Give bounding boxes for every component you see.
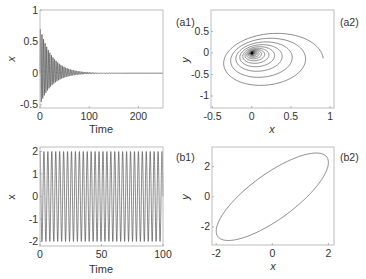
y-tick-label: -1 — [29, 213, 38, 225]
plot-a2-line — [224, 33, 324, 85]
plot-a1-ylabel: x — [5, 56, 17, 63]
x-tick-label: 0 — [269, 247, 275, 259]
panel-label-b1: (b1) — [176, 151, 195, 163]
plot-b2-limit-cycle: -202-202 x y (b1) (b2) — [176, 147, 359, 272]
plot-a2-ticks: -0.500.51-1-0.500.5 — [191, 25, 333, 122]
x-tick-label: 100 — [80, 110, 98, 122]
plot-a1-xlabel: Time — [89, 123, 113, 135]
plot-a2-xlabel: x — [268, 123, 275, 135]
y-tick-label: -0.5 — [20, 98, 38, 110]
y-tick-label: 1 — [32, 168, 38, 180]
plot-b1-xlabel: Time — [89, 263, 113, 275]
plot-a2-phase-portrait: -0.500.51-1-0.500.5 x y (a1) (a2) — [176, 10, 359, 135]
y-tick-label: 2 — [204, 160, 210, 172]
plot-b1-line — [40, 152, 163, 242]
figure: 0100200-0.500.51 Time x -0.500.51-1-0.50… — [0, 0, 366, 279]
plot-a2-curve — [224, 33, 324, 85]
plot-b2-axes-box — [212, 147, 334, 245]
x-tick-label: 0.5 — [284, 110, 299, 122]
x-tick-label: 50 — [96, 248, 108, 260]
y-tick-label: 2 — [32, 145, 38, 157]
plot-b1-time-series: 050100-2-1012 Time x — [5, 145, 172, 275]
y-tick-label: -1 — [200, 89, 209, 101]
plot-a1-axes-box — [40, 10, 163, 108]
plot-a2-ylabel: y — [179, 56, 191, 64]
y-tick-label: -2 — [201, 220, 210, 232]
y-tick-label: -0.5 — [191, 68, 209, 80]
plot-b2-curve — [216, 153, 328, 240]
y-tick-label: -2 — [29, 235, 38, 247]
x-tick-label: 200 — [130, 110, 148, 122]
plot-b1-ylabel: x — [5, 194, 17, 200]
plot-a1-line — [40, 29, 163, 102]
x-tick-label: 100 — [154, 248, 172, 260]
panel-label-a2: (a2) — [340, 16, 359, 28]
panel-label-b2: (b2) — [340, 151, 359, 163]
panel-label-a1: (a1) — [176, 16, 195, 28]
y-tick-label: 0 — [32, 190, 38, 202]
y-tick-label: 0 — [203, 46, 209, 58]
x-tick-label: -0.5 — [204, 110, 222, 122]
x-tick-label: 0 — [249, 110, 255, 122]
x-tick-label: 0 — [37, 248, 43, 260]
plot-a1-ticks: 0100200-0.500.51 — [20, 4, 147, 123]
plot-a1-curve — [40, 29, 163, 102]
x-tick-label: 2 — [325, 247, 331, 259]
y-tick-label: 1 — [32, 4, 38, 16]
plot-a1-time-series: 0100200-0.500.51 Time x — [5, 4, 163, 136]
plot-b1-curve — [40, 152, 163, 242]
x-tick-label: 0 — [37, 110, 43, 122]
y-tick-label: 0.5 — [23, 35, 38, 47]
plot-b2-ticks: -202-202 — [201, 160, 332, 259]
y-tick-label: 0 — [204, 190, 210, 202]
x-tick-label: -2 — [212, 247, 221, 259]
plot-b2-line — [216, 153, 328, 240]
y-tick-label: 0.5 — [194, 25, 209, 37]
plot-b2-ylabel: y — [179, 193, 191, 201]
y-tick-label: 0 — [32, 67, 38, 79]
x-tick-label: 1 — [327, 110, 333, 122]
plot-a2-axes-box — [211, 10, 334, 108]
plot-b2-xlabel: x — [269, 260, 276, 272]
